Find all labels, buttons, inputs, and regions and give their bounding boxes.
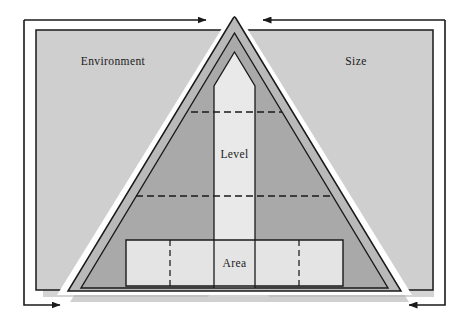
pyramid-diagram: Environment Size [0,0,469,327]
size-label: Size [345,55,366,67]
area-label: Area [223,257,247,269]
diagram-root: Environment Size [0,0,469,327]
level-label: Level [220,148,248,160]
area-base-band: Area [126,240,343,286]
environment-label: Environment [81,55,146,67]
